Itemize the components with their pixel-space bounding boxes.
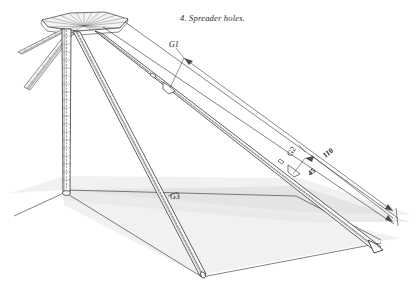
spreader-hole-markers	[150, 73, 300, 177]
leader-line-g1-tick	[176, 48, 184, 58]
spreader-hole-g2-nick	[278, 159, 284, 164]
technical-illustration-canvas: 4. Spreader holes. G1 G2 G3 110 45	[0, 0, 419, 300]
center-mast	[62, 29, 71, 195]
spreader-holes-figure: 4. Spreader holes. G1 G2 G3 110 45	[0, 0, 419, 300]
label-g2: G2	[285, 145, 298, 158]
dimension-label-110: 110	[321, 146, 335, 160]
dimension-arrow-110-start	[184, 58, 193, 65]
ground-edge-left	[14, 192, 66, 216]
label-g3: G3	[170, 192, 180, 201]
apex-crown-group	[41, 12, 128, 35]
leader-line-g2	[293, 158, 305, 174]
center-mast-foot	[63, 191, 71, 196]
dimension-arrow-45-start	[305, 156, 314, 162]
leader-line-g1	[170, 58, 184, 88]
label-g1: G1	[169, 40, 179, 49]
figure-caption: 4. Spreader holes.	[180, 13, 245, 23]
dimension-label-45: 45	[306, 166, 318, 178]
